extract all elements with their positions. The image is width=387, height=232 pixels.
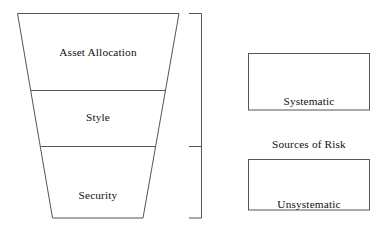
funnel-segment-label-style: Style [38,110,158,124]
callout-label-line-2: Sources of Risk [249,137,369,151]
callout-label-unsystematic: Unsystematic Sources of Risk [249,168,369,232]
callout-label-line-1: Unsystematic [249,197,369,211]
callout-label-line-1: Systematic [249,94,369,108]
funnel-segment-label-line-2: Selection [38,231,158,232]
funnel-segment-label-security-selection: Security Selection [38,159,158,232]
diagram-canvas: Asset Allocation Style Security Selectio… [0,0,387,232]
callout-label-systematic: Systematic Sources of Risk [249,65,369,181]
funnel-segment-label-asset-allocation: Asset Allocation [18,45,178,59]
funnel-segment-label-line-1: Security [38,188,158,202]
